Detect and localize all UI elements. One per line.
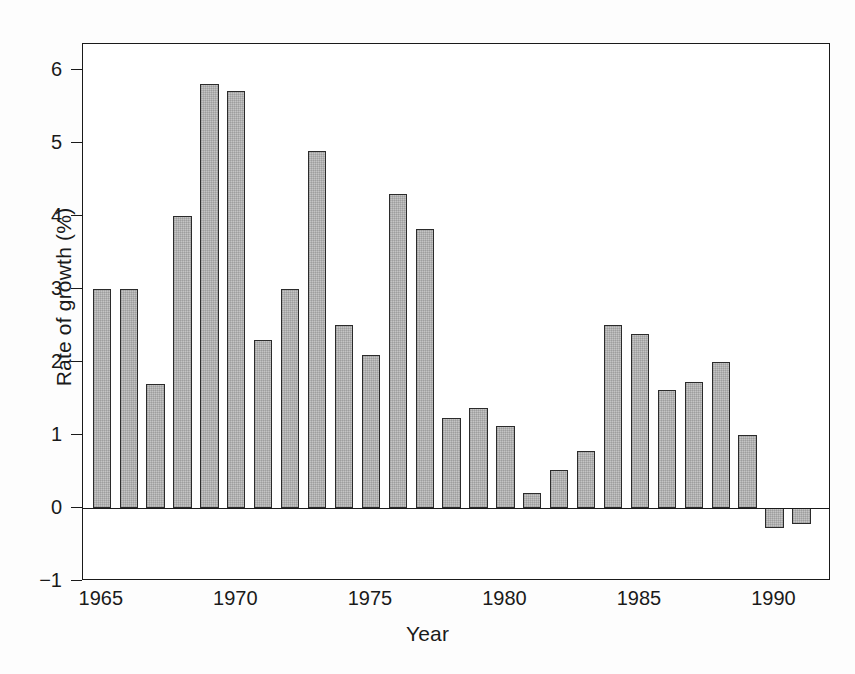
bar: [416, 229, 434, 508]
y-axis-tick-label: 4: [4, 203, 62, 226]
bar: [200, 84, 218, 508]
bar: [765, 508, 783, 528]
y-axis-tick-label: 3: [4, 276, 62, 299]
x-axis-tick-label: 1985: [589, 587, 689, 610]
y-axis-tick-label: 0: [4, 495, 62, 518]
bar: [658, 390, 676, 508]
y-axis-tick: [71, 215, 82, 216]
y-axis-tick: [71, 580, 82, 581]
bar-series: [83, 44, 829, 579]
bar: [738, 435, 756, 508]
bar: [335, 325, 353, 508]
chart-figure: Rate of growth (%) −10123456 19651970197…: [0, 0, 855, 674]
y-axis-tick-label: 1: [4, 422, 62, 445]
bar: [496, 426, 514, 508]
x-axis-tick-label: 1965: [51, 587, 151, 610]
bar: [227, 91, 245, 507]
bar: [389, 194, 407, 508]
y-axis-tick-label: 2: [4, 349, 62, 372]
y-axis-tick: [71, 434, 82, 435]
bar: [146, 384, 164, 508]
y-axis-tick: [71, 361, 82, 362]
bar: [604, 325, 622, 508]
y-axis-tick: [71, 288, 82, 289]
bar: [120, 289, 138, 508]
y-axis-tick: [71, 507, 82, 508]
x-axis-tick-label: 1990: [723, 587, 823, 610]
y-axis-tick-label: 5: [4, 130, 62, 153]
x-axis-tick-label: 1975: [320, 587, 420, 610]
bar: [442, 418, 460, 508]
x-axis-tick-label: 1980: [454, 587, 554, 610]
bar: [254, 340, 272, 508]
bar: [362, 355, 380, 508]
x-axis-tick-label: 1970: [185, 587, 285, 610]
bar: [173, 216, 191, 508]
x-axis-title: Year: [0, 622, 855, 646]
bar: [577, 451, 595, 508]
bar: [685, 382, 703, 508]
bar: [792, 508, 810, 524]
bar: [631, 334, 649, 508]
bar: [469, 408, 487, 508]
bar: [308, 151, 326, 508]
bar: [523, 493, 541, 508]
bar: [281, 289, 299, 508]
y-axis-tick: [71, 69, 82, 70]
bar: [93, 289, 111, 508]
zero-baseline: [83, 508, 829, 509]
y-axis-tick-label: 6: [4, 57, 62, 80]
plot-area: [82, 43, 830, 580]
y-axis-tick: [71, 142, 82, 143]
bar: [550, 470, 568, 508]
bar: [712, 362, 730, 508]
